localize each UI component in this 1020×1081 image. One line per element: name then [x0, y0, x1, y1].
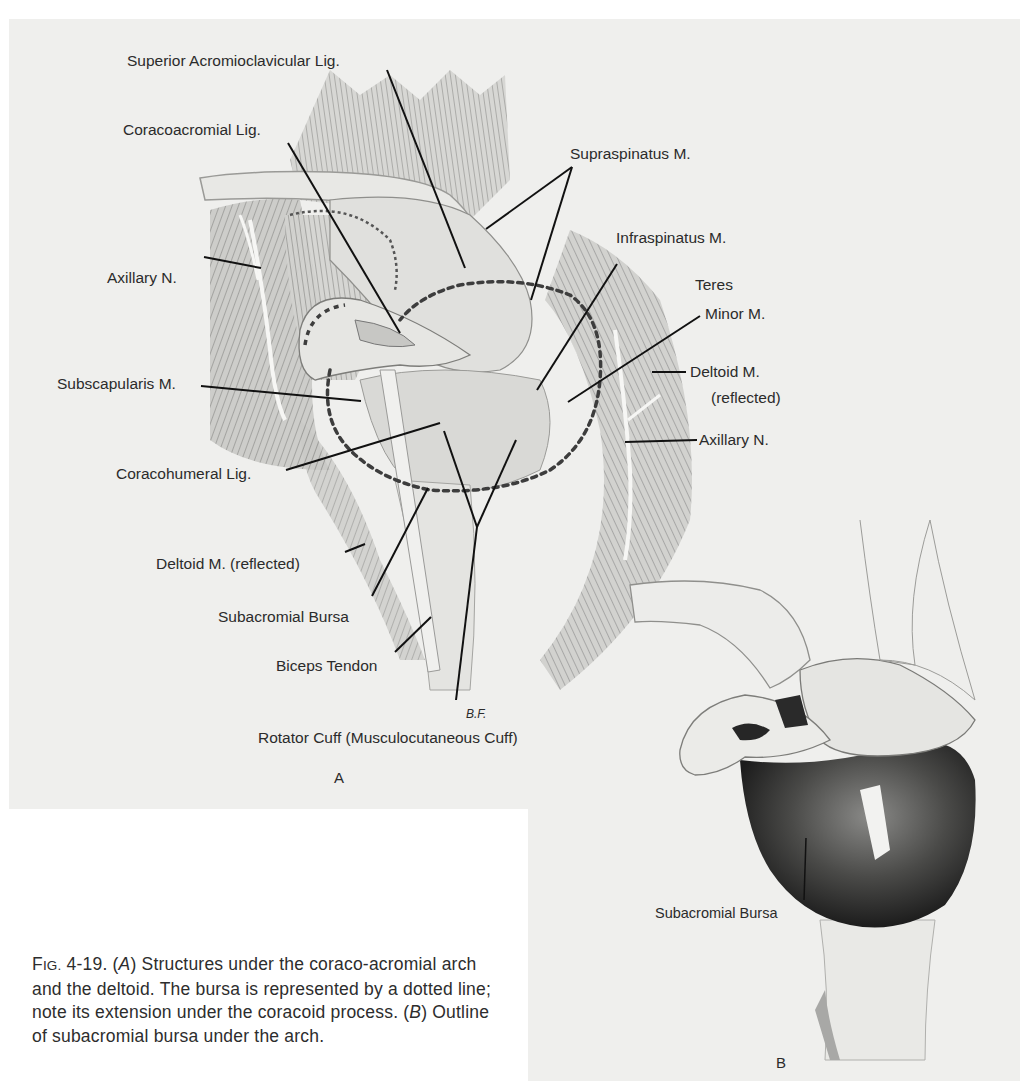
- caption-a-marker: A: [119, 954, 131, 974]
- label-subscapularis-m: Subscapularis M.: [57, 375, 176, 393]
- panel-b-drawing: [630, 520, 976, 1060]
- artist-signature: B.F.: [466, 705, 486, 723]
- label-subacromial-bursa-a: Subacromial Bursa: [218, 608, 349, 626]
- panel-letter-b: B: [776, 1054, 786, 1071]
- caption-fig-prefix: FIG.: [32, 954, 62, 974]
- label-coracohumeral-lig: Coracohumeral Lig.: [116, 465, 251, 483]
- panel-a-drawing: [200, 70, 692, 690]
- label-axillary-n-left: Axillary N.: [107, 269, 177, 287]
- label-supraspinatus-m: Supraspinatus M.: [570, 145, 691, 163]
- figure-caption: FIG. 4-19. (A) Structures under the cora…: [8, 953, 508, 1048]
- label-biceps-tendon: Biceps Tendon: [276, 657, 377, 675]
- label-infraspinatus-m: Infraspinatus M.: [616, 229, 726, 247]
- panel-letter-a: A: [334, 769, 344, 786]
- anatomical-illustration: [0, 0, 1020, 1081]
- label-rotator-cuff: Rotator Cuff (Musculocutaneous Cuff): [258, 729, 518, 747]
- label-deltoid-m-right: Deltoid M.: [690, 363, 760, 381]
- label-minor-m: Minor M.: [705, 305, 765, 323]
- label-deltoid-m-reflected-left: Deltoid M. (reflected): [156, 555, 300, 573]
- label-superior-acromioclavicular-lig: Superior Acromioclavicular Lig.: [127, 52, 340, 70]
- label-axillary-n-right: Axillary N.: [699, 431, 769, 449]
- caption-fig-number: 4-19.: [67, 954, 108, 974]
- label-subacromial-bursa-b: Subacromial Bursa: [655, 904, 778, 922]
- label-deltoid-reflected-right: (reflected): [711, 389, 781, 407]
- caption-b-marker: B: [409, 1002, 421, 1022]
- label-teres: Teres: [695, 276, 733, 294]
- label-coracoacromial-lig: Coracoacromial Lig.: [123, 121, 261, 139]
